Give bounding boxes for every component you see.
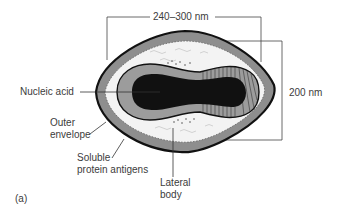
label-lateral-1: Lateral [160, 177, 191, 189]
panel-label: (a) [15, 193, 27, 205]
width-dimension-label: 240–300 nm [153, 11, 209, 23]
label-nucleic-acid: Nucleic acid [20, 86, 74, 98]
label-outer-envelope-2: envelope [50, 129, 91, 141]
height-dimension-label: 200 nm [289, 87, 322, 99]
label-soluble-1: Soluble [77, 152, 110, 164]
label-outer-envelope-1: Outer [50, 117, 75, 129]
label-soluble-2: protein antigens [77, 164, 148, 176]
label-lateral-2: body [160, 189, 182, 201]
